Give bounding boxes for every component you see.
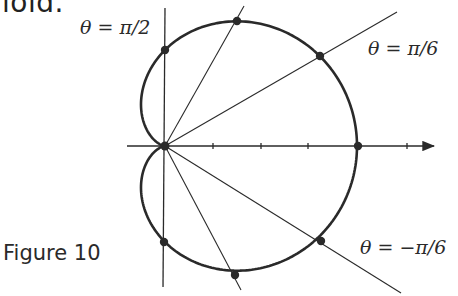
point-minus-pi-over-2 bbox=[160, 238, 168, 246]
point-minus-pi-over-6 bbox=[317, 237, 325, 245]
ray-pi-over-6 bbox=[165, 12, 397, 146]
label-theta-pi-over-2: θ = π/2 bbox=[80, 16, 150, 38]
point-origin bbox=[161, 142, 170, 151]
figure-label: Figure 10 bbox=[3, 241, 101, 265]
point-zero bbox=[354, 142, 362, 150]
ray-minus-pi-over-3 bbox=[165, 146, 241, 290]
label-theta-minus-pi-over-6: θ = −π/6 bbox=[360, 236, 446, 258]
label-theta-pi-over-6: θ = π/6 bbox=[368, 37, 438, 59]
point-minus-pi-over-3 bbox=[231, 271, 239, 279]
ray-minus-pi-over-6 bbox=[165, 146, 401, 293]
point-pi-over-6 bbox=[316, 52, 324, 60]
point-pi-over-2 bbox=[161, 46, 169, 54]
figure: ioid. θ = π/2 θ = π/6 θ = −π/6 Figure 10 bbox=[0, 0, 458, 296]
point-pi-over-3 bbox=[233, 17, 241, 25]
caption-text-fragment: ioid. bbox=[2, 0, 64, 19]
